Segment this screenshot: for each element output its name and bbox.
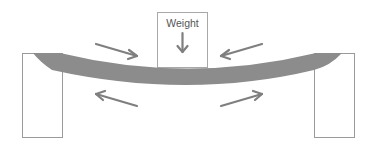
weight-block: Weight: [158, 13, 208, 68]
tension-arrow-bottom-left: [96, 91, 137, 106]
tension-arrow-bottom-right: [221, 91, 262, 106]
compression-arrow-top-right: [221, 44, 262, 59]
beam-bending-diagram: Weight: [0, 0, 375, 149]
compression-arrow-top-left: [96, 44, 137, 59]
weight-label: Weight: [166, 17, 199, 29]
